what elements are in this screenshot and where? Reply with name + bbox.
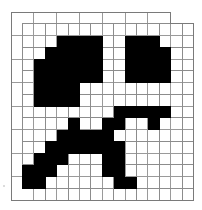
black-cell: [57, 47, 69, 59]
black-cell: [45, 47, 57, 59]
black-cell: [148, 106, 160, 118]
black-cell: [68, 59, 80, 71]
black-cell: [148, 47, 160, 59]
black-cell: [148, 36, 160, 48]
black-cell: [34, 165, 46, 177]
black-cell: [159, 106, 171, 118]
black-cell: [102, 118, 114, 130]
pattern-board: [0, 0, 202, 210]
black-cell: [125, 59, 137, 71]
black-cell: [125, 177, 137, 189]
black-cell: [79, 141, 91, 153]
black-cell: [79, 59, 91, 71]
black-cell: [91, 59, 103, 71]
black-cell: [57, 59, 69, 71]
black-cell: [45, 153, 57, 165]
black-cell: [57, 83, 69, 95]
black-cell: [114, 141, 126, 153]
black-cell: [57, 141, 69, 153]
black-cell: [34, 59, 46, 71]
black-cell: [45, 165, 57, 177]
black-cell: [159, 47, 171, 59]
black-cell: [136, 47, 148, 59]
black-cell: [114, 153, 126, 165]
black-cell: [136, 36, 148, 48]
black-cell: [68, 47, 80, 59]
black-cell: [148, 59, 160, 71]
black-cell: [125, 71, 137, 83]
black-cell: [34, 94, 46, 106]
black-cell: [34, 177, 46, 189]
black-cell: [114, 118, 126, 130]
black-cell: [79, 47, 91, 59]
black-cell: [68, 83, 80, 95]
black-cell: [34, 83, 46, 95]
black-cell: [68, 118, 80, 130]
black-cell: [159, 71, 171, 83]
black-cell: [45, 71, 57, 83]
black-cell: [102, 165, 114, 177]
black-cell: [68, 130, 80, 142]
black-cell: [34, 71, 46, 83]
black-cell: [114, 177, 126, 189]
black-cell: [125, 106, 137, 118]
black-cell: [136, 71, 148, 83]
black-cell: [125, 47, 137, 59]
black-cell: [45, 94, 57, 106]
black-cell: [68, 36, 80, 48]
stray-mark: [3, 185, 5, 187]
black-cell: [91, 71, 103, 83]
black-cell: [91, 36, 103, 48]
black-cell: [136, 106, 148, 118]
black-cell: [79, 71, 91, 83]
black-cell: [57, 153, 69, 165]
black-cell: [91, 141, 103, 153]
black-cell: [102, 141, 114, 153]
black-cell: [22, 177, 34, 189]
black-cell: [68, 71, 80, 83]
black-cell: [57, 71, 69, 83]
black-cell: [57, 130, 69, 142]
black-cell: [79, 36, 91, 48]
black-cell: [79, 130, 91, 142]
black-cell: [114, 106, 126, 118]
black-cells: [22, 36, 171, 189]
black-cell: [102, 153, 114, 165]
black-cell: [45, 83, 57, 95]
black-cell: [125, 36, 137, 48]
black-cell: [45, 141, 57, 153]
black-cell: [68, 141, 80, 153]
black-cell: [148, 118, 160, 130]
black-cell: [91, 130, 103, 142]
black-cell: [159, 59, 171, 71]
black-cell: [34, 153, 46, 165]
black-cell: [114, 165, 126, 177]
black-cell: [68, 94, 80, 106]
black-cell: [148, 71, 160, 83]
black-cell: [136, 59, 148, 71]
black-cell: [102, 130, 114, 142]
black-cell: [57, 36, 69, 48]
black-cell: [22, 165, 34, 177]
black-cell: [57, 94, 69, 106]
black-cell: [45, 59, 57, 71]
black-cell: [91, 47, 103, 59]
